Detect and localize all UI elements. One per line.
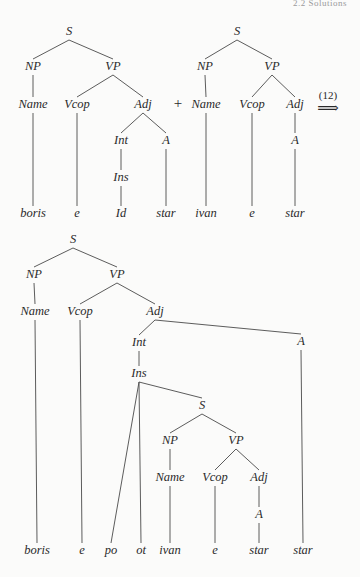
tree-edge	[73, 248, 117, 267]
leaf-word: star	[285, 206, 305, 220]
tree-node-np: NP	[161, 433, 178, 447]
tree-node-vcop: Vcop	[202, 470, 228, 484]
tree-node-name: Name	[17, 97, 48, 111]
tree-edge	[205, 75, 206, 97]
tree-node-adj: Adj	[133, 97, 152, 111]
leaf-word: boris	[20, 206, 46, 220]
leaf-word: ivan	[159, 543, 181, 557]
tree-node-s: S	[199, 398, 206, 412]
leaf-word: star	[156, 206, 176, 220]
tree-edge	[202, 414, 236, 433]
page-header: 2.2 Solutions	[293, 0, 347, 8]
tree-edge	[272, 75, 295, 97]
tree-node-np: NP	[196, 59, 213, 73]
tree-node-a: A	[290, 133, 299, 147]
source-tree-right: SNPVPNameVcopAdjAivanestar	[190, 24, 304, 220]
tree-edges	[33, 40, 166, 206]
tree-edge	[33, 40, 69, 59]
tree-node-np: NP	[25, 267, 42, 281]
tree-nodes: SNPVPNameVcopAdjIntAInsSNPVPNameVcopAdjA…	[19, 232, 312, 557]
tree-edge	[34, 283, 35, 304]
tree-node-np: NP	[24, 59, 41, 73]
leaf-word: po	[104, 543, 118, 557]
tree-node-s: S	[70, 232, 77, 246]
tree-node-name: Name	[190, 97, 221, 111]
tree-edge	[139, 320, 155, 335]
tree-edge	[155, 320, 301, 334]
syntax-tree-diagram: 2.2 Solutions SNPVPNameVcopAdjIntAInsbor…	[0, 0, 360, 577]
tree-edge	[113, 75, 143, 97]
tree-edge	[139, 382, 141, 543]
tree-node-adj: Adj	[285, 97, 304, 111]
leaf-word: ot	[136, 543, 146, 557]
tree-node-a: A	[161, 133, 170, 147]
tree-node-ins: Ins	[112, 170, 128, 184]
tree-node-ins: Ins	[130, 366, 146, 380]
result-tree: SNPVPNameVcopAdjIntAInsSNPVPNameVcopAdjA…	[19, 232, 312, 557]
tree-edge	[252, 75, 272, 97]
tree-node-s: S	[234, 24, 241, 38]
tree-node-a: A	[254, 507, 263, 521]
source-tree-left: SNPVPNameVcopAdjIntAInsboriseIdstar	[17, 24, 175, 220]
tree-edge	[111, 382, 139, 543]
tree-node-name: Name	[19, 304, 50, 318]
tree-edge	[205, 40, 237, 59]
leaf-word: star	[249, 543, 269, 557]
tree-edge	[117, 283, 155, 304]
leaf-word: e	[212, 543, 218, 557]
tree-edge	[35, 320, 37, 543]
tree-edge	[80, 320, 82, 543]
tree-edge	[80, 283, 117, 304]
leaf-word: e	[249, 206, 255, 220]
tree-edge	[121, 113, 143, 133]
tree-node-adj: Adj	[249, 470, 268, 484]
tree-edge	[170, 414, 202, 433]
tree-node-vp: VP	[264, 59, 280, 73]
tree-edge	[236, 449, 259, 470]
tree-node-s: S	[66, 24, 73, 38]
tree-node-adj: Adj	[145, 304, 164, 318]
tree-edge	[215, 449, 236, 470]
tree-node-vp: VP	[109, 267, 125, 281]
tree-edge	[77, 75, 113, 97]
leaf-word: Id	[115, 206, 127, 220]
tree-node-vp: VP	[105, 59, 121, 73]
double-right-arrow-icon: ⟹	[317, 100, 339, 116]
tree-node-int: Int	[113, 133, 128, 147]
tree-node-vcop: Vcop	[64, 97, 90, 111]
tree-edges	[205, 40, 295, 206]
tree-edge	[237, 40, 272, 59]
tree-edge	[34, 248, 73, 267]
tree-node-vcop: Vcop	[239, 97, 265, 111]
tree-node-vcop: Vcop	[67, 304, 93, 318]
tree-edge	[301, 350, 303, 543]
tree-node-name: Name	[154, 470, 185, 484]
tree-nodes: SNPVPNameVcopAdjAivanestar	[190, 24, 304, 220]
tree-edge	[139, 382, 202, 398]
tree-edge	[143, 113, 166, 133]
leaf-word: ivan	[195, 206, 217, 220]
tree-edge	[69, 40, 113, 59]
tree-nodes: SNPVPNameVcopAdjIntAInsboriseIdstar	[17, 24, 175, 220]
tree-node-a: A	[296, 334, 305, 348]
tree-node-vp: VP	[228, 433, 244, 447]
leaf-word: boris	[24, 543, 50, 557]
leaf-word: e	[79, 543, 85, 557]
tree-node-int: Int	[131, 335, 146, 349]
plus-operator: +	[174, 95, 182, 111]
leaf-word: e	[74, 206, 80, 220]
leaf-word: star	[293, 543, 313, 557]
tree-edges	[34, 248, 303, 543]
